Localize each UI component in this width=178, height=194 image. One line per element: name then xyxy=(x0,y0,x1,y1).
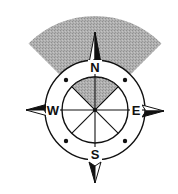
west-label: W xyxy=(47,103,60,118)
east-label: E xyxy=(132,103,141,118)
south-arrow-icon xyxy=(89,162,101,183)
center-dot xyxy=(93,108,97,112)
north-label: N xyxy=(90,60,99,75)
compass-rose-diagram: N S W E xyxy=(0,0,178,194)
south-label: S xyxy=(91,147,100,162)
